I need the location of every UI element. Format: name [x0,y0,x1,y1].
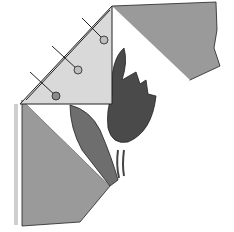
pinned-fabric-triangle [20,6,112,104]
quilt-block-drawing [0,0,234,232]
tulip-stem [123,150,124,176]
pin-head-icon [74,66,82,74]
pin-head-icon [100,36,108,44]
pin-head-icon [52,92,60,100]
